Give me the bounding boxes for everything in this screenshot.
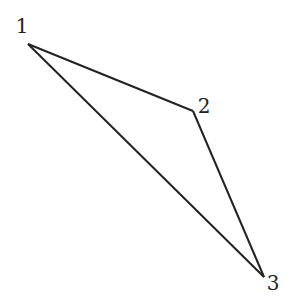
triangle-diagram: 1 2 3 (0, 0, 298, 301)
vertex-label-1: 1 (16, 14, 29, 38)
edge-3-1 (28, 44, 264, 277)
edge-1-2 (28, 44, 193, 111)
edge-2-3 (193, 111, 264, 277)
vertex-label-3: 3 (267, 271, 280, 295)
vertex-label-2: 2 (198, 94, 211, 118)
